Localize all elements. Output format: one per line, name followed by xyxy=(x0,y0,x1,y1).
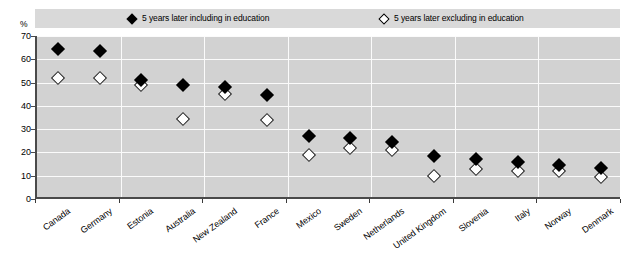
gridline-horizontal xyxy=(37,129,620,130)
chart-container: 5 years later including in education 5 y… xyxy=(0,0,628,265)
data-point-including xyxy=(594,160,608,174)
gridline-vertical xyxy=(204,36,205,197)
x-axis-tick xyxy=(620,199,621,203)
gridline-horizontal xyxy=(37,152,620,153)
x-axis-label-norway: Norway xyxy=(543,206,573,232)
data-point-including xyxy=(51,42,65,56)
legend-label-excluding: 5 years later excluding in education xyxy=(394,14,524,23)
x-axis-tick xyxy=(202,199,203,203)
x-axis-tick xyxy=(536,199,537,203)
data-point-including xyxy=(260,88,274,102)
legend-item-excluding: 5 years later excluding in education xyxy=(380,9,524,28)
chart-legend: 5 years later including in education 5 y… xyxy=(35,9,620,28)
data-point-including xyxy=(427,149,441,163)
legend-label-including: 5 years later including in education xyxy=(142,14,269,23)
x-axis-tick xyxy=(119,199,120,203)
x-axis-tick xyxy=(35,199,36,203)
gridline-vertical xyxy=(538,36,539,197)
x-axis-label-slovenia: Slovenia xyxy=(456,206,489,234)
gridline-vertical xyxy=(121,36,122,197)
x-axis-label-canada: Canada xyxy=(41,206,72,232)
data-point-including xyxy=(343,131,357,145)
gridline-vertical xyxy=(455,36,456,197)
x-axis-label-france: France xyxy=(253,206,281,230)
data-point-including xyxy=(469,152,483,166)
x-axis-tick xyxy=(453,199,454,203)
gridline-horizontal xyxy=(37,106,620,107)
gridline-horizontal xyxy=(37,176,620,177)
x-axis-label-mexico: Mexico xyxy=(294,206,322,231)
x-axis-label-new-zealand: New Zealand xyxy=(191,206,239,245)
gridline-horizontal xyxy=(37,36,620,37)
x-axis-label-germany: Germany xyxy=(78,206,113,235)
x-axis-label-estonia: Estonia xyxy=(126,206,156,231)
filled-diamond-icon xyxy=(126,13,137,24)
plot-area xyxy=(35,36,620,199)
x-axis-label-sweden: Sweden xyxy=(333,206,365,233)
y-axis-unit-label: % xyxy=(20,19,28,29)
x-axis-tick xyxy=(286,199,287,203)
gridline-horizontal xyxy=(37,83,620,84)
data-point-including xyxy=(93,44,107,58)
x-axis-label-italy: Italy xyxy=(513,206,532,224)
data-point-including xyxy=(302,129,316,143)
x-axis-tick xyxy=(369,199,370,203)
x-axis-label-australia: Australia xyxy=(164,206,197,234)
data-point-including xyxy=(176,78,190,92)
open-diamond-icon xyxy=(378,13,389,24)
gridline-vertical xyxy=(288,36,289,197)
gridline-vertical xyxy=(371,36,372,197)
legend-item-including: 5 years later including in education xyxy=(128,9,269,28)
x-axis-label-denmark: Denmark xyxy=(580,206,615,235)
data-point-excluding xyxy=(302,148,316,162)
data-point-excluding xyxy=(176,112,190,126)
y-axis-tick-marks xyxy=(0,36,40,199)
gridline-horizontal xyxy=(37,59,620,60)
data-point-excluding xyxy=(260,113,274,127)
data-point-excluding xyxy=(427,169,441,183)
data-point-including xyxy=(510,155,524,169)
